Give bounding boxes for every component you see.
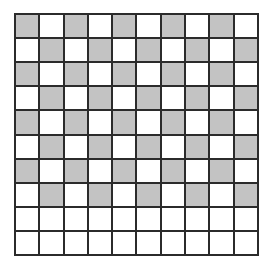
grid-cell xyxy=(65,208,87,230)
grid-cell xyxy=(89,111,111,133)
grid-cell xyxy=(235,63,257,85)
grid-cell xyxy=(210,111,232,133)
grid-cell xyxy=(235,15,257,37)
grid-cell xyxy=(113,208,135,230)
grid-cell xyxy=(65,232,87,254)
grid-cell xyxy=(40,39,62,61)
grid-cell xyxy=(186,39,208,61)
grid-cell xyxy=(186,232,208,254)
grid-cell xyxy=(210,87,232,109)
grid-cell xyxy=(89,184,111,206)
grid-cell xyxy=(40,232,62,254)
grid-cell xyxy=(162,184,184,206)
grid-cell xyxy=(89,136,111,158)
checkerboard-grid xyxy=(14,13,259,256)
grid-cell xyxy=(113,87,135,109)
grid-cell xyxy=(235,208,257,230)
grid-cell xyxy=(210,63,232,85)
grid-cell xyxy=(137,87,159,109)
grid-cell xyxy=(186,184,208,206)
grid-cell xyxy=(137,136,159,158)
grid-cell xyxy=(186,87,208,109)
grid-cell xyxy=(162,232,184,254)
grid-cell xyxy=(186,208,208,230)
grid-cell xyxy=(210,15,232,37)
grid-cell xyxy=(65,111,87,133)
grid-cell xyxy=(16,136,38,158)
grid-cell xyxy=(16,39,38,61)
grid-cell xyxy=(162,111,184,133)
grid-cell xyxy=(40,87,62,109)
grid-cell xyxy=(16,184,38,206)
grid-cell xyxy=(137,184,159,206)
grid-cell xyxy=(210,39,232,61)
figure-root xyxy=(0,0,276,269)
grid-cell xyxy=(16,208,38,230)
grid-cell xyxy=(137,111,159,133)
grid-cell xyxy=(16,160,38,182)
grid-cell xyxy=(89,87,111,109)
grid-cell xyxy=(113,39,135,61)
grid-cell xyxy=(235,136,257,158)
grid-cell xyxy=(16,63,38,85)
grid-cell xyxy=(40,184,62,206)
grid-cell xyxy=(235,87,257,109)
grid-cell xyxy=(16,87,38,109)
grid-cell xyxy=(210,208,232,230)
grid-cell xyxy=(162,39,184,61)
grid-cell xyxy=(40,160,62,182)
grid-cell xyxy=(186,15,208,37)
grid-cell xyxy=(137,160,159,182)
grid-cell xyxy=(89,232,111,254)
grid-cell xyxy=(65,160,87,182)
grid-cell xyxy=(16,232,38,254)
grid-cell xyxy=(40,136,62,158)
grid-cell xyxy=(137,63,159,85)
grid-cell xyxy=(113,160,135,182)
grid-cell xyxy=(40,208,62,230)
grid-cell xyxy=(16,111,38,133)
grid-cell xyxy=(162,208,184,230)
grid-cell xyxy=(65,184,87,206)
grid-cell xyxy=(40,15,62,37)
grid-cell xyxy=(210,184,232,206)
grid-cell xyxy=(113,15,135,37)
grid-cell xyxy=(137,15,159,37)
grid-cell xyxy=(113,232,135,254)
grid-cell xyxy=(186,136,208,158)
grid-cell xyxy=(65,87,87,109)
grid-cell xyxy=(113,63,135,85)
grid-cell xyxy=(40,111,62,133)
grid-cell xyxy=(186,63,208,85)
grid-cell xyxy=(137,208,159,230)
grid-cell xyxy=(89,63,111,85)
grid-cell xyxy=(113,136,135,158)
grid-cell xyxy=(137,39,159,61)
grid-cell xyxy=(89,39,111,61)
grid-cell xyxy=(40,63,62,85)
grid-cell xyxy=(89,208,111,230)
grid-cell xyxy=(89,160,111,182)
grid-cell xyxy=(162,15,184,37)
grid-cell xyxy=(65,39,87,61)
grid-cell xyxy=(113,111,135,133)
grid-cell xyxy=(162,63,184,85)
grid-cell xyxy=(65,63,87,85)
grid-cell xyxy=(235,232,257,254)
grid-cell xyxy=(235,111,257,133)
grid-cell xyxy=(235,184,257,206)
grid-cell xyxy=(137,232,159,254)
grid-cell xyxy=(65,136,87,158)
grid-cell xyxy=(235,160,257,182)
grid-cell xyxy=(210,136,232,158)
grid-cell xyxy=(89,15,111,37)
grid-cell xyxy=(162,160,184,182)
grid-cell xyxy=(210,160,232,182)
grid-cell xyxy=(186,160,208,182)
grid-cell xyxy=(186,111,208,133)
grid-cell xyxy=(113,184,135,206)
grid-cell xyxy=(162,87,184,109)
grid-cell xyxy=(162,136,184,158)
grid-cell xyxy=(16,15,38,37)
grid-cell xyxy=(65,15,87,37)
